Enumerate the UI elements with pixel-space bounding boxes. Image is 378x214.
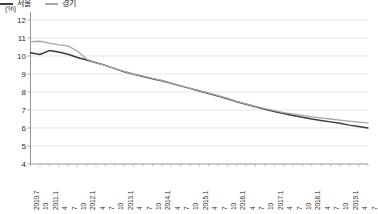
legend-swatch-icon [0, 3, 13, 6]
legend-item-경기[interactable]: 경기 [45, 0, 76, 8]
series-line-서울 [31, 51, 369, 128]
legend-item-서울[interactable]: 서울 [0, 0, 31, 8]
series-line-경기 [31, 41, 369, 123]
legend-label: 서울 [17, 0, 31, 8]
legend-label: 경기 [62, 0, 76, 8]
legend-swatch-icon [45, 3, 58, 6]
